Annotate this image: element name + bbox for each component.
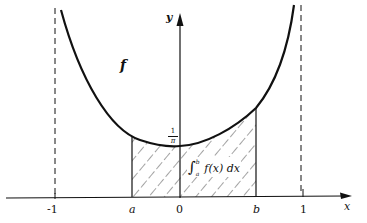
tick-label-one: 1: [300, 204, 307, 215]
function-label: f: [120, 58, 126, 72]
plot-svg: [0, 0, 367, 223]
shaded-area: [132, 108, 256, 197]
tick-label-a: a: [129, 204, 136, 215]
tick-label-b: b: [253, 204, 260, 215]
integral-diagram: f y x -1 a 0 b 1 1 π ∫ba f(x) dx: [0, 0, 367, 223]
tick-label-zero: 0: [176, 204, 183, 215]
x-axis-label: x: [344, 201, 350, 212]
y-axis-label: y: [166, 12, 172, 23]
function-curve: [61, 5, 294, 146]
min-value-label: 1 π: [168, 128, 178, 145]
integral-expression: ∫ba f(x) dx: [187, 157, 241, 177]
tick-label-neg-one: -1: [47, 204, 58, 215]
